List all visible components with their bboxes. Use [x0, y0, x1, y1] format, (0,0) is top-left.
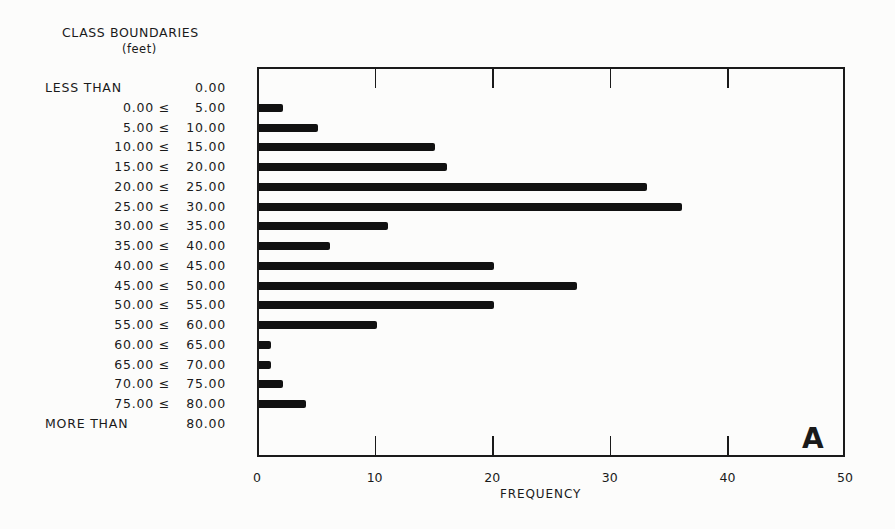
class-lower-bound: 25.00 ≤ [30, 199, 170, 214]
frequency-bar [259, 163, 447, 171]
x-axis-label: FREQUENCY [500, 487, 581, 501]
class-upper-bound: 15.00 [166, 139, 226, 154]
frequency-bar [259, 104, 283, 112]
class-lower-bound: 70.00 ≤ [30, 376, 170, 391]
class-lower-bound: 45.00 ≤ [30, 278, 170, 293]
class-lower-bound: 65.00 ≤ [30, 357, 170, 372]
x-tick-label: 10 [367, 470, 383, 485]
class-upper-bound: 25.00 [166, 179, 226, 194]
class-upper-bound: 30.00 [166, 199, 226, 214]
class-lower-bound: 20.00 ≤ [30, 179, 170, 194]
class-lower-bound: 0.00 ≤ [30, 100, 170, 115]
x-tick-mark-bottom [610, 436, 612, 455]
class-upper-bound: 75.00 [166, 376, 226, 391]
x-tick-mark-bottom [375, 436, 377, 455]
class-lower-bound: 35.00 ≤ [30, 238, 170, 253]
x-tick-mark-top [375, 69, 377, 88]
class-upper-bound: 65.00 [166, 337, 226, 352]
class-upper-bound: 50.00 [166, 278, 226, 293]
x-tick-mark-top [610, 69, 612, 88]
class-upper-bound: 80.00 [166, 416, 226, 431]
frequency-bar [259, 400, 306, 408]
class-upper-bound: 80.00 [166, 396, 226, 411]
class-lower-bound: 40.00 ≤ [30, 258, 170, 273]
class-lower-bound: 10.00 ≤ [30, 139, 170, 154]
x-tick-label: 30 [602, 470, 618, 485]
class-upper-bound: 35.00 [166, 218, 226, 233]
frequency-bar [259, 222, 388, 230]
class-upper-bound: 0.00 [166, 80, 226, 95]
x-tick-mark-top [727, 69, 729, 88]
class-lower-bound: 60.00 ≤ [30, 337, 170, 352]
x-tick-mark-top [492, 69, 494, 88]
class-label-lead: LESS THAN [45, 80, 122, 95]
class-upper-bound: 70.00 [166, 357, 226, 372]
class-lower-bound: 75.00 ≤ [30, 396, 170, 411]
class-label-lead: MORE THAN [45, 416, 128, 431]
frequency-bar [259, 321, 377, 329]
frequency-bar [259, 361, 271, 369]
class-lower-bound: 50.00 ≤ [30, 297, 170, 312]
class-upper-bound: 10.00 [166, 120, 226, 135]
class-upper-bound: 45.00 [166, 258, 226, 273]
frequency-bar [259, 203, 682, 211]
frequency-bar [259, 242, 330, 250]
frequency-bar [259, 124, 318, 132]
chart-title: CLASS BOUNDARIES [62, 25, 199, 40]
class-upper-bound: 5.00 [166, 100, 226, 115]
panel-label: A [802, 422, 824, 455]
x-tick-mark-bottom [492, 436, 494, 455]
class-lower-bound: 55.00 ≤ [30, 317, 170, 332]
class-upper-bound: 55.00 [166, 297, 226, 312]
class-lower-bound: 15.00 ≤ [30, 159, 170, 174]
chart-subtitle: (feet) [122, 42, 157, 56]
frequency-bar [259, 301, 494, 309]
x-tick-label: 0 [253, 470, 261, 485]
plot-area [257, 67, 845, 457]
class-upper-bound: 40.00 [166, 238, 226, 253]
class-lower-bound: 5.00 ≤ [30, 120, 170, 135]
x-tick-label: 40 [719, 470, 735, 485]
x-tick-mark-bottom [727, 436, 729, 455]
frequency-bar [259, 282, 577, 290]
class-upper-bound: 60.00 [166, 317, 226, 332]
frequency-bar [259, 262, 494, 270]
frequency-bar [259, 183, 647, 191]
x-tick-label: 50 [837, 470, 853, 485]
class-lower-bound: 30.00 ≤ [30, 218, 170, 233]
frequency-bar [259, 143, 435, 151]
x-tick-label: 20 [484, 470, 500, 485]
frequency-bar [259, 380, 283, 388]
class-upper-bound: 20.00 [166, 159, 226, 174]
frequency-bar [259, 341, 271, 349]
